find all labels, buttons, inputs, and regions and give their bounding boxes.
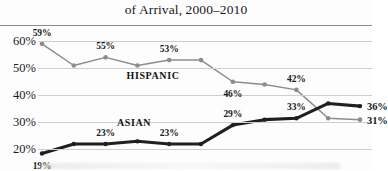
data-point-marker xyxy=(358,104,362,108)
gridline-20 xyxy=(38,149,372,150)
data-point-marker xyxy=(358,117,363,122)
y-axis-tick-label: 30% xyxy=(0,115,36,130)
data-point-marker xyxy=(294,116,298,120)
gridline-30 xyxy=(38,122,372,123)
data-label-asian: 33% xyxy=(287,102,306,112)
data-label-hispanic: 42% xyxy=(287,74,306,84)
data-label-asian: 36% xyxy=(367,101,388,112)
gridline-50 xyxy=(38,68,372,69)
series-label-asian: ASIAN xyxy=(117,117,151,128)
data-point-marker xyxy=(262,82,267,87)
data-point-marker xyxy=(262,117,266,121)
title-divider xyxy=(0,25,372,26)
gridline-60 xyxy=(38,41,372,42)
data-point-marker xyxy=(40,151,44,155)
data-point-marker xyxy=(326,101,330,105)
data-label-hispanic: 55% xyxy=(96,41,115,51)
data-point-marker xyxy=(135,139,139,143)
data-point-marker xyxy=(231,123,235,127)
plot-area: 20%30%40%50%60%59%55%53%46%42%31%19%23%2… xyxy=(38,33,372,163)
line-series-canvas xyxy=(38,33,372,163)
data-label-asian: 29% xyxy=(223,109,242,119)
data-point-marker xyxy=(40,42,45,47)
data-point-marker xyxy=(231,79,236,84)
data-point-marker xyxy=(167,142,171,146)
y-axis-tick-label: 20% xyxy=(0,142,36,157)
chart-title: of Arrival, 2000–2010 xyxy=(0,2,372,18)
series-line-hispanic xyxy=(42,44,360,120)
gridline-40 xyxy=(38,95,372,96)
data-point-marker xyxy=(103,142,107,146)
data-label-asian: 23% xyxy=(160,128,179,138)
data-point-marker xyxy=(72,142,76,146)
data-label-asian: 23% xyxy=(96,128,115,138)
data-point-marker xyxy=(103,55,108,60)
data-label-hispanic: 59% xyxy=(33,28,52,38)
data-point-marker xyxy=(72,63,77,68)
y-axis-tick-label: 50% xyxy=(0,61,36,76)
data-point-marker xyxy=(167,58,172,63)
series-label-hispanic: HISPANIC xyxy=(127,70,180,81)
y-axis-tick-label: 40% xyxy=(0,88,36,103)
data-point-marker xyxy=(199,142,203,146)
data-point-marker xyxy=(294,88,299,93)
data-label-hispanic: 46% xyxy=(223,89,242,99)
data-label-hispanic: 31% xyxy=(367,114,388,125)
data-point-marker xyxy=(199,58,204,63)
page-artifact xyxy=(40,163,340,169)
y-axis-tick-label: 60% xyxy=(0,34,36,49)
data-point-marker xyxy=(326,116,331,121)
data-label-hispanic: 53% xyxy=(160,44,179,54)
data-point-marker xyxy=(135,63,140,68)
